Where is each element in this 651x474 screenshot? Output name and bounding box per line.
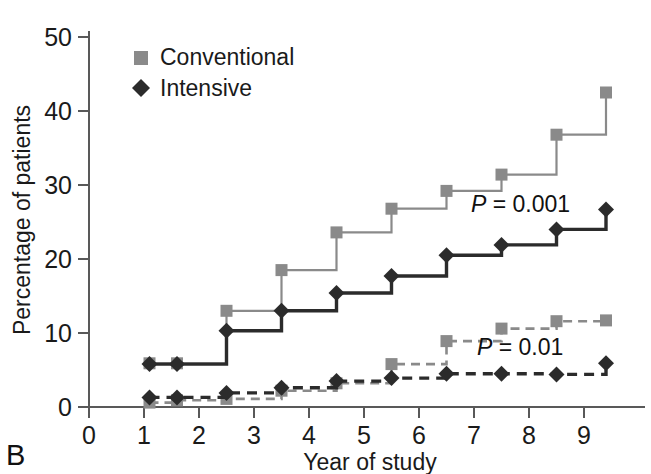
x-tick-label-3: 3 bbox=[247, 421, 261, 449]
y-axis-title: Percentage of patients bbox=[9, 105, 35, 335]
data-point-square bbox=[221, 305, 233, 317]
data-point-square bbox=[496, 169, 508, 181]
legend-diamond-icon bbox=[132, 79, 150, 97]
data-point-diamond bbox=[549, 221, 565, 237]
p-value-lower: P = 0.01 bbox=[477, 334, 563, 360]
y-tick-label-10: 10 bbox=[44, 319, 72, 347]
y-tick-label-30: 30 bbox=[44, 171, 72, 199]
p-value-upper-text: = 0.001 bbox=[486, 191, 570, 217]
y-tick-label-20: 20 bbox=[44, 245, 72, 273]
series-markers bbox=[144, 87, 613, 370]
figure-panel-b: 50 40 30 20 10 0 Percentage of patients … bbox=[0, 0, 651, 474]
series-path bbox=[150, 363, 607, 397]
data-point-diamond bbox=[439, 247, 455, 263]
legend-square-icon bbox=[134, 51, 148, 65]
data-point-square bbox=[496, 323, 508, 335]
legend-label-intensive: Intensive bbox=[160, 75, 252, 101]
p-italic-upper: P bbox=[471, 191, 487, 217]
x-axis: 0 1 2 3 4 5 6 7 8 9 Year of study bbox=[82, 407, 645, 474]
data-point-square bbox=[441, 335, 453, 347]
x-tick-label-8: 8 bbox=[522, 421, 536, 449]
series-path bbox=[150, 93, 607, 364]
x-tick-label-7: 7 bbox=[467, 421, 481, 449]
p-value-lower-text: = 0.01 bbox=[492, 334, 563, 360]
x-tick-label-0: 0 bbox=[82, 421, 96, 449]
data-point-diamond bbox=[598, 355, 614, 371]
data-point-diamond bbox=[549, 366, 565, 382]
x-tick-label-5: 5 bbox=[357, 421, 371, 449]
data-point-diamond bbox=[494, 366, 510, 382]
x-axis-title: Year of study bbox=[303, 449, 437, 474]
data-point-square bbox=[386, 358, 398, 370]
x-tick-label-1: 1 bbox=[137, 421, 151, 449]
series-conventional-dashed bbox=[144, 314, 613, 408]
x-tick-label-9: 9 bbox=[577, 421, 591, 449]
data-point-square bbox=[276, 264, 288, 276]
y-axis: 50 40 30 20 10 0 Percentage of patients bbox=[9, 23, 89, 421]
data-point-square bbox=[551, 315, 563, 327]
legend-label-conventional: Conventional bbox=[160, 44, 294, 70]
p-italic-lower: P bbox=[477, 334, 493, 360]
x-tick-label-6: 6 bbox=[412, 421, 426, 449]
data-point-square bbox=[600, 87, 612, 99]
y-tick-label-0: 0 bbox=[58, 393, 72, 421]
data-point-diamond bbox=[598, 201, 614, 217]
panel-label-b: B bbox=[6, 439, 25, 471]
data-point-square bbox=[551, 129, 563, 141]
x-tick-label-4: 4 bbox=[302, 421, 316, 449]
chart-svg: 50 40 30 20 10 0 Percentage of patients … bbox=[0, 0, 651, 474]
p-value-upper: P = 0.001 bbox=[471, 191, 570, 217]
data-point-diamond bbox=[329, 285, 345, 301]
data-point-square bbox=[386, 203, 398, 215]
y-tick-label-50: 50 bbox=[44, 23, 72, 51]
legend: Conventional Intensive bbox=[132, 44, 294, 101]
data-point-square bbox=[600, 314, 612, 326]
data-point-diamond bbox=[384, 268, 400, 284]
y-tick-label-40: 40 bbox=[44, 97, 72, 125]
series-path bbox=[150, 320, 607, 402]
data-point-diamond bbox=[274, 303, 290, 319]
data-point-diamond bbox=[494, 237, 510, 253]
series-conventional bbox=[144, 87, 613, 370]
data-point-diamond bbox=[219, 323, 235, 339]
data-point-square bbox=[441, 185, 453, 197]
data-point-square bbox=[331, 226, 343, 238]
x-tick-label-2: 2 bbox=[192, 421, 206, 449]
